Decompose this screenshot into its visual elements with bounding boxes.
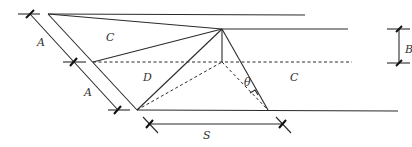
label-dim-A-lower: A (83, 86, 92, 99)
label-dim-B: B (404, 43, 412, 56)
left-slope-line (48, 14, 137, 110)
label-dim-S: S (203, 129, 211, 142)
dim-S-ext-right (276, 117, 291, 133)
geometry-diagram: C D C A A B S θ (0, 0, 412, 147)
label-region-D: D (142, 71, 152, 84)
label-angle-theta: θ (244, 76, 251, 89)
top-boundary-line (48, 14, 305, 15)
top-to-apex-line (48, 14, 222, 29)
label-dim-A-upper: A (36, 36, 45, 49)
label-region-C-upper: C (106, 31, 115, 44)
dim-S-ext-left (143, 117, 158, 133)
label-region-C-right: C (290, 71, 299, 84)
apex-to-bottom-right-line (222, 29, 268, 110)
